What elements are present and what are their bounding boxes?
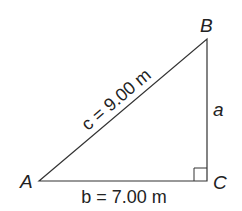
vertex-a-label: A [19,171,33,192]
side-c-label: c = 9.00 m [77,64,154,134]
triangle-shape [39,39,207,181]
side-b-label: b = 7.00 m [81,187,167,207]
vertex-c-label: C [213,172,227,193]
triangle-diagram: A B C a b = 7.00 m c = 9.00 m [0,0,242,211]
right-angle-marker [194,168,207,181]
vertex-b-label: B [200,15,213,36]
side-a-label: a [213,99,224,120]
